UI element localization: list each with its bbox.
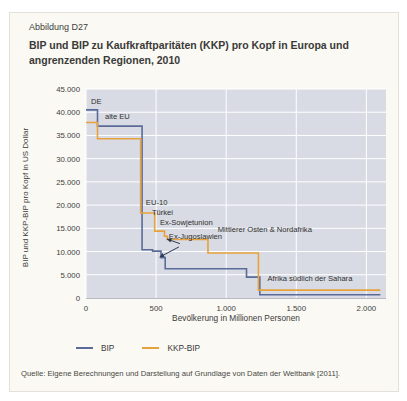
bip-line-swatch [76, 347, 93, 349]
annotation-label: Türkei [152, 208, 173, 217]
y-tick-label: 45.000 [40, 85, 80, 94]
legend-item-bip: BIP [76, 343, 114, 353]
x-tick-label: 500 [150, 304, 163, 313]
bip-line [86, 110, 380, 295]
figure-card: Abbildung D27 BIP und BIP zu Kaufkraftpa… [9, 12, 399, 392]
x-tick-label: 2.000 [357, 304, 377, 313]
kkp-bip-line [86, 122, 380, 290]
annotation-label: alte EU [105, 112, 130, 121]
y-tick-label: 5.000 [40, 270, 80, 279]
x-tick-label: 1.000 [216, 304, 236, 313]
plot-area: DEalte EUEU-10TürkeiEx-SowjetunionMittle… [86, 89, 386, 299]
y-tick-label: 0 [40, 294, 80, 303]
figure-screenshot: Abbildung D27 BIP und BIP zu Kaufkraftpa… [0, 0, 407, 401]
annotation-label: DE [91, 97, 102, 106]
y-tick-label: 10.000 [40, 247, 80, 256]
source-note: Quelle: Eigene Berechnungen und Darstell… [21, 369, 391, 378]
y-tick-label: 40.000 [40, 108, 80, 117]
legend: BIP KKP-BIP [76, 343, 200, 353]
annotation-label: Ex-Jugoslawien [169, 232, 222, 241]
y-tick-label: 35.000 [40, 131, 80, 140]
figure-number-label: Abbildung D27 [29, 22, 88, 32]
x-tick-label: 0 [84, 304, 88, 313]
chart-canvas [86, 89, 386, 298]
legend-label-bip: BIP [101, 343, 114, 353]
y-tick-label: 20.000 [40, 201, 80, 210]
annotation-label: Ex-Sowjetunion [160, 218, 213, 227]
y-axis-title: BIP und KKP-BIP pro Kopf in US Dollar [21, 113, 30, 283]
legend-label-kkp-bip: KKP-BIP [167, 343, 200, 353]
x-axis-title: Bevölkerung in Millionen Personen [86, 313, 386, 323]
annotation-label: Afrika südlich der Sahara [268, 274, 353, 283]
y-tick-label: 25.000 [40, 177, 80, 186]
annotation-label: Mittlerer Osten & Nordafrika [218, 225, 312, 234]
y-tick-label: 15.000 [40, 224, 80, 233]
x-tick-label: 1.500 [287, 304, 307, 313]
kkp-bip-line-swatch [142, 347, 159, 349]
legend-item-kkp-bip: KKP-BIP [142, 343, 200, 353]
y-tick-label: 30.000 [40, 154, 80, 163]
figure-title: BIP und BIP zu Kaufkraftparitäten (KKP) … [29, 38, 381, 67]
annotation-label: EU-10 [146, 198, 168, 207]
